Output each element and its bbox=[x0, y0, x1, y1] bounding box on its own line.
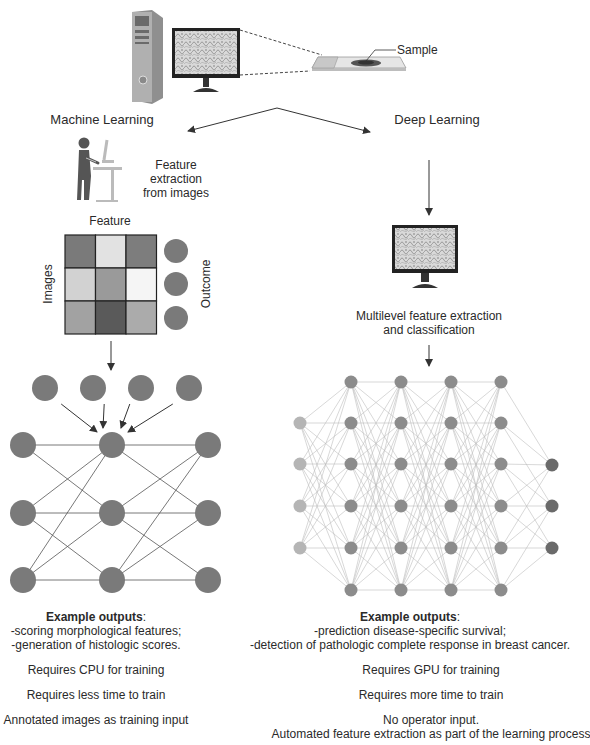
multilevel-extraction-label: Multilevel feature extraction and classi… bbox=[356, 309, 502, 337]
network-node bbox=[10, 567, 36, 593]
zoom-line bbox=[240, 71, 310, 75]
output-item: -detection of pathologic complete respon… bbox=[250, 638, 570, 652]
dl-requirement-hardware: Requires GPU for training bbox=[362, 663, 499, 677]
person-at-computer-icon bbox=[77, 138, 122, 203]
dl-example-outputs: Example outputs: -prediction disease-spe… bbox=[250, 610, 570, 652]
ml-neural-network bbox=[10, 375, 221, 593]
network-node bbox=[495, 584, 508, 597]
glass-slide-icon bbox=[312, 50, 406, 71]
network-node bbox=[195, 432, 221, 458]
network-node bbox=[294, 542, 307, 555]
computer-tower-icon bbox=[132, 10, 163, 104]
matrix-cell bbox=[96, 301, 127, 334]
outcome-label: Outcome bbox=[199, 260, 213, 309]
network-node bbox=[294, 500, 307, 513]
feature-extraction-label: Feature extraction from images bbox=[143, 158, 209, 200]
network-node bbox=[495, 417, 508, 430]
network-node bbox=[445, 584, 458, 597]
input-node bbox=[32, 375, 58, 401]
monitor-icon bbox=[172, 28, 240, 92]
network-node bbox=[99, 567, 125, 593]
outcome-nodes bbox=[164, 239, 188, 330]
network-node bbox=[495, 376, 508, 389]
matrix-cell bbox=[65, 301, 96, 334]
network-node bbox=[395, 542, 408, 555]
network-node bbox=[99, 432, 125, 458]
matrix-cell bbox=[126, 235, 157, 268]
output-item: -prediction disease-specific survival; bbox=[250, 624, 570, 638]
sample-label: Sample bbox=[397, 43, 438, 57]
matrix-cell bbox=[126, 268, 157, 301]
text-line: Automated feature extraction as part of … bbox=[272, 727, 590, 741]
output-item: -scoring morphological features; bbox=[11, 624, 182, 638]
text-line: extraction bbox=[143, 172, 209, 186]
network-node bbox=[345, 500, 358, 513]
network-node bbox=[395, 417, 408, 430]
text-line: from images bbox=[143, 186, 209, 200]
ml-example-outputs: Example outputs: -scoring morphological … bbox=[11, 610, 182, 652]
network-node bbox=[99, 500, 125, 526]
network-node bbox=[445, 458, 458, 471]
machine-learning-title: Machine Learning bbox=[50, 112, 153, 127]
network-node bbox=[495, 458, 508, 471]
network-node bbox=[10, 500, 36, 526]
dl-requirement-input: No operator input. Automated feature ext… bbox=[272, 713, 590, 741]
matrix-row-label: Images bbox=[41, 264, 55, 303]
text-line: Feature bbox=[143, 158, 209, 172]
network-node bbox=[195, 500, 221, 526]
network-node bbox=[546, 459, 559, 472]
ml-requirement-hardware: Requires CPU for training bbox=[28, 663, 165, 677]
feature-matrix bbox=[65, 235, 157, 334]
outcome-node bbox=[164, 306, 188, 330]
example-outputs-heading: Example outputs: bbox=[250, 610, 570, 624]
input-node bbox=[80, 375, 106, 401]
network-node bbox=[495, 542, 508, 555]
outcome-node bbox=[164, 272, 188, 296]
dl-requirement-time: Requires more time to train bbox=[359, 688, 504, 702]
network-node bbox=[345, 417, 358, 430]
network-node bbox=[395, 458, 408, 471]
matrix-cell bbox=[96, 235, 127, 268]
dl-neural-network bbox=[294, 376, 559, 597]
zoom-line bbox=[240, 30, 322, 55]
network-node bbox=[395, 500, 408, 513]
network-node bbox=[345, 458, 358, 471]
network-node bbox=[445, 542, 458, 555]
matrix-cell bbox=[65, 235, 96, 268]
example-outputs-heading: Example outputs: bbox=[11, 610, 182, 624]
matrix-cell bbox=[126, 301, 157, 334]
network-node bbox=[294, 458, 307, 471]
output-item: -generation of histologic scores. bbox=[11, 638, 182, 652]
matrix-cell bbox=[65, 268, 96, 301]
network-node bbox=[445, 500, 458, 513]
network-node bbox=[195, 567, 221, 593]
outcome-node bbox=[164, 239, 188, 263]
network-node bbox=[445, 376, 458, 389]
input-node bbox=[128, 375, 154, 401]
network-node bbox=[546, 500, 559, 513]
deep-learning-title: Deep Learning bbox=[394, 112, 479, 127]
network-node bbox=[10, 432, 36, 458]
matrix-cell bbox=[96, 268, 127, 301]
network-node bbox=[345, 584, 358, 597]
monitor-icon bbox=[392, 225, 458, 288]
text-line: Multilevel feature extraction bbox=[356, 309, 502, 323]
input-node bbox=[176, 375, 202, 401]
ml-requirement-input: Annotated images as training input bbox=[4, 713, 189, 727]
network-node bbox=[294, 417, 307, 430]
network-node bbox=[395, 584, 408, 597]
ml-requirement-time: Requires less time to train bbox=[27, 688, 166, 702]
network-node bbox=[445, 417, 458, 430]
network-node bbox=[345, 542, 358, 555]
split-arrows bbox=[188, 108, 370, 132]
matrix-column-label: Feature bbox=[89, 214, 130, 228]
network-node bbox=[495, 500, 508, 513]
text-line: and classification bbox=[356, 323, 502, 337]
text-line: No operator input. bbox=[272, 713, 590, 727]
network-node bbox=[546, 542, 559, 555]
network-node bbox=[395, 376, 408, 389]
network-node bbox=[345, 376, 358, 389]
